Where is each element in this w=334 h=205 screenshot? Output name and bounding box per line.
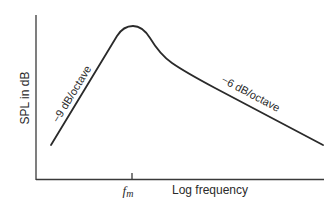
x-axis-label: Log frequency: [172, 183, 248, 197]
rising-slope-annotation: −9 dB/octave: [50, 63, 94, 124]
y-axis-label: SPL in dB: [18, 72, 32, 125]
tick-label-fm: fm: [123, 183, 134, 199]
response-curve: [51, 26, 323, 145]
spl-frequency-chart: SPL in dB Log frequency fm −9 dB/octave …: [0, 0, 334, 205]
tick-label-fm-sub: m: [126, 188, 133, 199]
